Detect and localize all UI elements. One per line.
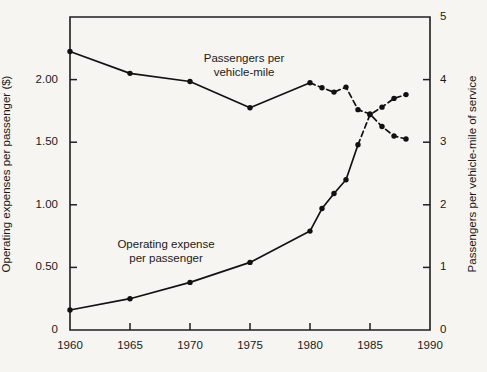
data-point-1-1985 xyxy=(367,111,372,116)
x-tick-label-1975: 1975 xyxy=(225,340,275,352)
annotation-expense-line2: per passenger xyxy=(129,252,203,264)
left-tick-label-0: 0 xyxy=(14,324,58,336)
annotation-passengers-line1: Passengers per xyxy=(204,52,285,64)
right-axis-ticks xyxy=(423,80,430,268)
data-point-1-1970 xyxy=(187,79,192,84)
data-point-0-1986 xyxy=(379,104,384,109)
left-tick-label-2.00: 2.00 xyxy=(14,74,58,86)
annotation-operating-expense-per-passenger: Operating expense per passenger xyxy=(96,237,236,265)
x-tick-label-1960: 1960 xyxy=(45,340,95,352)
series-markers xyxy=(67,49,408,313)
left-tick-label-1.00: 1.00 xyxy=(14,199,58,211)
data-point-1-1987 xyxy=(391,133,396,138)
data-point-1-1984 xyxy=(355,107,360,112)
data-point-1-1981 xyxy=(319,85,324,90)
data-point-1-1975 xyxy=(247,105,252,110)
x-tick-label-1980: 1980 xyxy=(285,340,335,352)
data-point-0-1981 xyxy=(319,206,324,211)
x-tick-label-1985: 1985 xyxy=(345,340,395,352)
x-tick-label-1970: 1970 xyxy=(165,340,215,352)
data-point-1-1965 xyxy=(127,71,132,76)
right-tick-label-0: 0 xyxy=(440,324,470,336)
annotation-passengers-per-vehicle-mile: Passengers per vehicle-mile xyxy=(184,51,304,79)
data-point-0-1960 xyxy=(67,307,72,312)
data-point-0-1980 xyxy=(307,228,312,233)
data-point-0-1987 xyxy=(391,96,396,101)
right-tick-label-5: 5 xyxy=(440,11,470,23)
data-point-0-1982 xyxy=(331,191,336,196)
annotation-expense-line1: Operating expense xyxy=(117,238,214,250)
chart-figure: 00.501.001.502.00 012345 196019651970197… xyxy=(0,0,487,372)
data-point-0-1965 xyxy=(127,296,132,301)
annotation-passengers-line2: vehicle-mile xyxy=(214,66,275,78)
left-tick-label-1.50: 1.50 xyxy=(14,136,58,148)
data-point-0-1983 xyxy=(343,177,348,182)
left-tick-label-0.50: 0.50 xyxy=(14,261,58,273)
data-point-0-1975 xyxy=(247,260,252,265)
data-point-1-1988 xyxy=(403,136,408,141)
x-tick-label-1990: 1990 xyxy=(405,340,455,352)
data-point-1-1980 xyxy=(307,80,312,85)
data-point-1-1986 xyxy=(379,124,384,129)
series-lines xyxy=(70,51,406,310)
data-point-1-1982 xyxy=(331,89,336,94)
right-axis-title: Passengers per vehicle-mile of service xyxy=(466,75,478,272)
data-point-0-1970 xyxy=(187,280,192,285)
series-line-solid-0 xyxy=(70,145,358,310)
left-axis-ticks xyxy=(70,80,77,268)
x-axis-ticks xyxy=(130,323,370,330)
left-axis-title: Operating expenses per passenger ($) xyxy=(0,75,12,272)
series-line-dashed-0 xyxy=(358,95,406,145)
data-point-1-1983 xyxy=(343,84,348,89)
data-point-0-1984 xyxy=(355,142,360,147)
data-point-1-1960 xyxy=(67,49,72,54)
data-point-0-1988 xyxy=(403,92,408,97)
x-tick-label-1965: 1965 xyxy=(105,340,155,352)
